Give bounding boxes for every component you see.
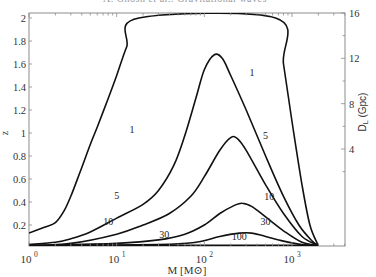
y2-tick-label: 16 <box>349 8 360 19</box>
y2-axis-label: DL (Gpc) <box>357 93 369 132</box>
x-tick-exponent: 2 <box>209 250 213 259</box>
y-tick-label: 0.2 <box>13 220 26 231</box>
y-tick-label: 0.4 <box>13 197 27 208</box>
y-tick-label: 1.2 <box>13 105 26 116</box>
y-tick-label: 0.6 <box>13 174 26 185</box>
x-tick-label: 10 <box>284 253 296 265</box>
y2-tick-label: 8 <box>349 99 354 110</box>
contour-label: 5 <box>114 190 119 201</box>
y2-tick-label: 12 <box>349 53 360 64</box>
contour-label: 30 <box>159 229 169 240</box>
contour-lines <box>29 13 318 245</box>
x-tick-label: 10 <box>108 253 120 265</box>
x-tick-exponent: 3 <box>297 250 301 259</box>
y-tick-label: 2 <box>21 13 26 24</box>
x-tick-label: 10 <box>21 253 33 265</box>
y-tick-label: 1 <box>21 128 26 139</box>
y-tick-label: 1.8 <box>13 36 26 47</box>
contour-label: 5 <box>263 130 268 141</box>
contour-label: 1 <box>250 67 255 78</box>
x-tick-exponent: 1 <box>122 250 126 259</box>
x-axis-label: M [M⊙] <box>168 264 207 276</box>
y-tick-label: 1.4 <box>13 82 27 93</box>
y2-tick-label: 4 <box>349 144 355 155</box>
contour-label: 1 <box>130 124 135 135</box>
contour-label: 10 <box>103 216 113 227</box>
contour-label: 100 <box>232 231 247 242</box>
contour-label: 30 <box>261 216 271 227</box>
y-axis-label: z <box>0 130 10 135</box>
contour-chart: 151030100151030 100101102103M [M⊙]0.20.4… <box>0 0 376 277</box>
contour-label: 10 <box>264 191 274 202</box>
y-tick-label: 0.8 <box>13 151 26 162</box>
y-tick-label: 1.6 <box>13 59 26 70</box>
contour-line-snr-5 <box>29 54 318 246</box>
x-tick-exponent: 0 <box>34 250 38 259</box>
